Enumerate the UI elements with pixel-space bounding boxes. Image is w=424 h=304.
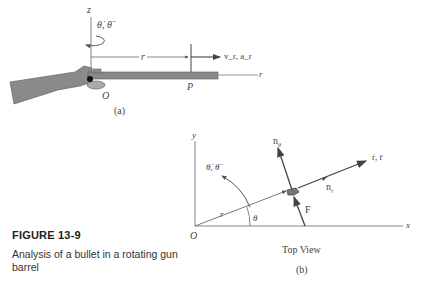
theta-label: θ [253, 214, 257, 223]
r-line-label: r [220, 210, 224, 219]
rdot-label: ṙ, r̈ [372, 153, 383, 162]
part-a-diagram [10, 17, 258, 104]
gun-stock [10, 66, 92, 104]
theta-rotation-arrow [222, 176, 250, 207]
n-theta-label: nθ [273, 136, 281, 148]
force-label: F [305, 205, 311, 215]
point-p-label: P [187, 82, 193, 92]
r-axis-label: r [259, 70, 263, 79]
origin-label-b: O [190, 231, 197, 241]
figure-number: FIGURE 13-9 [12, 229, 81, 241]
z-axis-label: z [87, 5, 91, 15]
x-axis-label: x [406, 221, 410, 230]
bullet-icon [287, 188, 299, 195]
force-arrow [294, 197, 305, 226]
gun-barrel [88, 72, 218, 79]
r-dimension-label: r [139, 52, 147, 62]
figure-caption: Analysis of a bullet in a rotating gun b… [12, 248, 182, 274]
origin-label-a: O [102, 91, 109, 101]
part-a-label: (a) [114, 106, 125, 116]
pivot-point [87, 76, 93, 82]
rotation-arrow-icon [86, 36, 104, 46]
rotation-label-a: θ̇, θ̈ [97, 20, 112, 30]
y-axis-label: y [192, 131, 196, 140]
n-theta-arrow [278, 148, 292, 190]
part-b-label: (b) [296, 265, 308, 275]
n-r-label: nr [326, 182, 333, 194]
r-position-line [195, 191, 286, 226]
n-r-subscript: r [331, 188, 333, 194]
velocity-label: v_r, a_r [224, 52, 252, 61]
top-view-label: Top View [282, 245, 321, 255]
rotation-label-b: θ̇, θ̈ [206, 163, 219, 172]
n-theta-subscript: θ [278, 142, 281, 148]
